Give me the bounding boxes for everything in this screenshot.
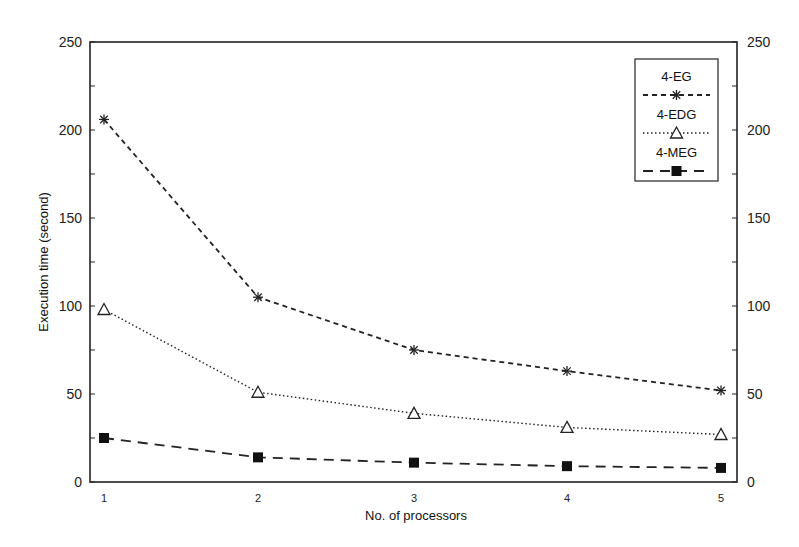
x-tick-label: 3 (411, 492, 417, 504)
legend: 4-EG4-EDG4-MEG (635, 59, 718, 181)
triangle-marker-icon (252, 386, 264, 397)
y-tick-label: 150 (59, 210, 83, 226)
y-tick-label-right: 100 (747, 298, 771, 314)
triangle-marker-icon (561, 421, 573, 432)
series-4-eg (99, 114, 726, 395)
square-marker-icon (562, 461, 572, 471)
x-axis-ticks: 12345 (101, 492, 724, 504)
y-tick-label: 50 (66, 386, 82, 402)
legend-label: 4-MEG (656, 145, 697, 160)
y-tick-label-right: 0 (747, 474, 755, 490)
triangle-marker-icon (98, 304, 110, 315)
line-chart: 050100150200250050100150200250 12345 4-E… (0, 0, 799, 547)
x-tick-label: 5 (718, 492, 724, 504)
y-axis-title: Execution time (second) (36, 192, 51, 331)
square-marker-icon (99, 433, 109, 443)
y-tick-label: 100 (59, 298, 83, 314)
series-4-edg (98, 304, 727, 440)
legend-label: 4-EG (661, 69, 691, 84)
square-marker-icon (409, 458, 419, 468)
y-tick-label-right: 200 (747, 122, 771, 138)
legend-label: 4-EDG (657, 107, 697, 122)
y-tick-label: 250 (59, 34, 83, 50)
square-marker-icon (253, 452, 263, 462)
y-tick-label: 0 (74, 474, 82, 490)
y-tick-label-right: 50 (747, 386, 763, 402)
y-tick-label-right: 250 (747, 34, 771, 50)
y-tick-label-right: 150 (747, 210, 771, 226)
x-tick-label: 1 (101, 492, 107, 504)
series-4-meg (99, 433, 726, 473)
square-marker-icon (672, 166, 682, 176)
x-tick-label: 2 (255, 492, 261, 504)
y-tick-label: 200 (59, 122, 83, 138)
square-marker-icon (716, 463, 726, 473)
x-axis-title: No. of processors (365, 508, 467, 523)
triangle-marker-icon (715, 428, 727, 439)
x-tick-label: 4 (564, 492, 570, 504)
data-series (98, 114, 727, 472)
